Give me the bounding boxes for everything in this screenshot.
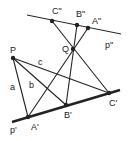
- point-P: [11, 56, 15, 60]
- line-p-double-prime: [27, 15, 121, 34]
- label-p-double-prime: p": [105, 40, 113, 50]
- label-C-prime: C': [109, 98, 117, 108]
- label-C-double-prime: C": [52, 6, 62, 16]
- label-Q: Q: [62, 44, 69, 54]
- label-b: b: [29, 80, 34, 90]
- line-B1-B2: [66, 25, 77, 105]
- label-A-double-prime: A": [92, 16, 101, 26]
- point-B-prime: [64, 103, 68, 107]
- label-p-prime: p': [10, 125, 17, 135]
- label-A-prime: A': [31, 122, 39, 132]
- label-c: c: [38, 57, 43, 67]
- label-a: a: [10, 82, 15, 92]
- point-A-prime: [26, 115, 30, 119]
- label-B-prime: B': [64, 110, 72, 120]
- projective-diagram: P Q C" B" A" p" c a b C' B' A' p': [0, 0, 132, 141]
- label-B-double-prime: B": [76, 9, 85, 19]
- label-P: P: [10, 45, 16, 55]
- point-B-double-prime: [75, 23, 79, 27]
- point-Q: [71, 47, 75, 51]
- line-a: [13, 58, 28, 117]
- point-C-prime: [107, 91, 111, 95]
- line-A1-A2: [28, 28, 88, 117]
- point-A-double-prime: [86, 26, 90, 30]
- point-C-double-prime: [50, 19, 54, 23]
